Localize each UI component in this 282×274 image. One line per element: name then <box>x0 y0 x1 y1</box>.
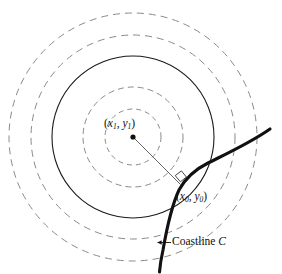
tangent-point-label: (x0, y0) <box>176 191 207 203</box>
center-point-label: (x1, y1) <box>104 118 135 130</box>
center-label-sub-y: 1 <box>128 122 132 131</box>
tangent-label-close-paren: ) <box>203 190 207 202</box>
center-label-var-y: y <box>122 117 127 129</box>
figure-container: (x1, y1) (x0, y0) Coastline C <box>0 0 282 274</box>
tangent-label-sub-x: 0 <box>185 195 189 204</box>
radius-line <box>133 137 181 185</box>
center-dot <box>130 134 135 139</box>
coastline-label-name: Coastline <box>172 235 215 247</box>
center-label-close-paren: ) <box>131 117 135 129</box>
coastline-label-symbol: C <box>218 235 226 247</box>
coastline-leader-arrowhead <box>158 240 162 244</box>
tangent-label-sub-y: 0 <box>200 195 204 204</box>
center-label-sub-x: 1 <box>113 122 117 131</box>
coastline-label: Coastline C <box>172 236 226 248</box>
tangent-label-var-y: y <box>194 190 199 202</box>
figure-canvas <box>0 0 282 274</box>
